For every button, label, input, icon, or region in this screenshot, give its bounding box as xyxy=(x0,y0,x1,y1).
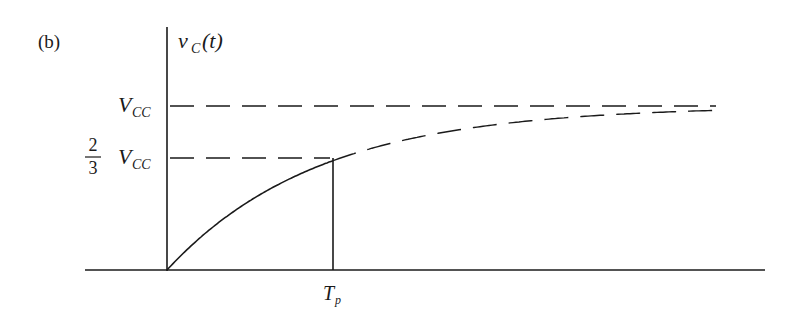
tp-label: T p xyxy=(323,282,341,307)
vcc-label: V CC xyxy=(118,92,151,120)
svg-text:2: 2 xyxy=(89,135,98,155)
panel-label: (b) xyxy=(38,31,60,53)
svg-text:CC: CC xyxy=(132,157,151,172)
y-axis-label: v C (t) xyxy=(178,28,223,56)
svg-text:(t): (t) xyxy=(202,28,223,53)
svg-text:v: v xyxy=(178,28,188,53)
svg-text:p: p xyxy=(334,293,341,307)
charging-curve-figure: (b) v C (t) V CC 2 3 V CC T p xyxy=(0,0,787,315)
svg-text:CC: CC xyxy=(132,105,151,120)
two-thirds-vcc-label: 2 3 V CC xyxy=(85,135,151,178)
svg-text:C: C xyxy=(191,41,201,56)
charging-curve-solid xyxy=(167,161,333,270)
svg-text:3: 3 xyxy=(89,158,98,178)
charging-curve-dashed xyxy=(333,110,714,160)
